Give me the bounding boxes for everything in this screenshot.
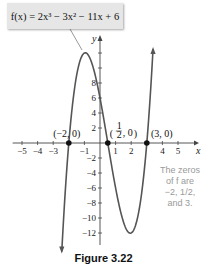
y-tick-label: −8	[86, 198, 96, 208]
cubic-curve	[62, 49, 153, 251]
svg-text:(: (	[110, 128, 114, 140]
note-line: and 3.	[155, 198, 205, 209]
y-axis-arrow-icon	[98, 35, 103, 41]
x-tick-label: −3	[48, 146, 58, 156]
zero-point	[66, 140, 72, 146]
equation-text: f(x) = 2x³ − 3x² − 11x + 6	[11, 11, 119, 22]
zero-point	[144, 140, 150, 146]
note-line: −2, 1/2,	[155, 187, 205, 198]
y-tick-label: −12	[82, 228, 96, 238]
y-tick-label: −2	[86, 153, 96, 163]
x-tick-label: 2	[129, 146, 134, 156]
zero-label: (−2, 0)	[53, 128, 80, 140]
equation-label: f(x) = 2x³ − 3x² − 11x + 6	[7, 3, 123, 29]
y-tick-label: 4	[92, 108, 97, 118]
x-axis-label: x	[195, 145, 201, 156]
ticks: −5−4−3−112458642−2−4−6−8−10−12	[17, 53, 181, 238]
zero-point	[105, 140, 111, 146]
y-tick-label: 8	[92, 78, 97, 88]
svg-text:): )	[134, 128, 137, 140]
x-tick-label: −4	[33, 146, 43, 156]
y-tick-label: −6	[86, 183, 96, 193]
y-tick-label: 2	[92, 123, 97, 133]
figure-caption: Figure 3.22	[0, 252, 207, 264]
zeros-note: The zeros of f are −2, 1/2, and 3.	[155, 165, 205, 209]
note-line: of f are	[155, 176, 205, 187]
zero-label: (3, 0)	[151, 128, 173, 140]
svg-text:2: 2	[117, 129, 122, 140]
y-tick-label: 6	[92, 93, 97, 103]
zero-label-half: (12, 0)	[110, 120, 137, 140]
x-tick-label: 5	[176, 146, 181, 156]
label-pointer	[70, 29, 82, 50]
y-tick-label: −4	[86, 168, 96, 178]
note-line: The zeros	[155, 165, 205, 176]
x-tick-label: 4	[160, 146, 165, 156]
y-tick-label: −10	[82, 213, 97, 223]
y-axis-label: y	[91, 33, 97, 44]
function-graph: xy −5−4−3−112458642−2−4−6−8−10−12 (−2, 0…	[0, 0, 207, 266]
x-tick-label: −5	[17, 146, 27, 156]
curve-arrow-up-icon	[150, 47, 155, 54]
x-tick-label: 1	[113, 146, 118, 156]
svg-text:, 0: , 0	[123, 127, 133, 138]
